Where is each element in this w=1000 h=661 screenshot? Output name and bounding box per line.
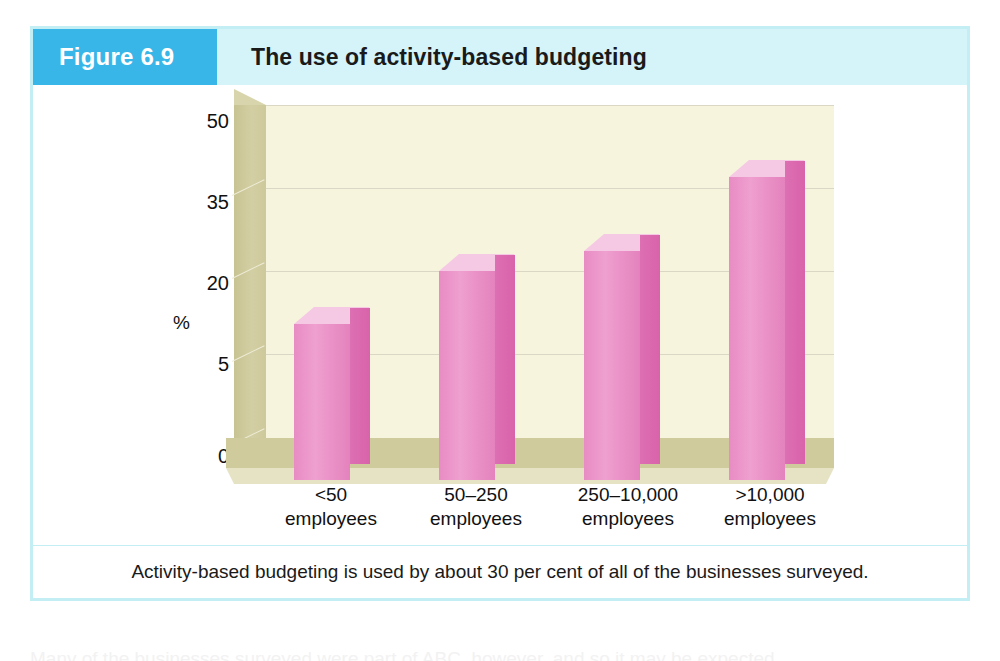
bar-side-face: [495, 255, 515, 464]
x-label-line2: employees: [553, 507, 703, 531]
axis-left-wall: [234, 105, 266, 438]
figure-header: Figure 6.9 The use of activity-based bud…: [33, 29, 967, 85]
x-label-medium: 50–250 employees: [416, 483, 536, 531]
figure-container: Figure 6.9 The use of activity-based bud…: [30, 26, 970, 601]
bar-chart-plot: [226, 105, 846, 480]
x-label-line1: 250–10,000: [553, 483, 703, 507]
gridline-50: [266, 105, 834, 106]
y-tick-label-0: 0: [183, 445, 229, 468]
chart-region: % 50 35 20 5 0 Small Medium Large Very l…: [33, 85, 967, 545]
bar-front-face: [439, 271, 495, 480]
x-label-line1: >10,000: [705, 483, 835, 507]
x-label-line2: employees: [705, 507, 835, 531]
x-label-line2: employees: [416, 507, 536, 531]
y-tick-label-35: 35: [183, 191, 229, 214]
bar-front-face: [584, 251, 640, 480]
x-label-large: 250–10,000 employees: [553, 483, 703, 531]
x-label-line1: <50: [271, 483, 391, 507]
y-axis-title: %: [173, 312, 190, 334]
bar-front-face: [729, 177, 785, 480]
x-label-line2: employees: [271, 507, 391, 531]
bar-side-face: [785, 161, 805, 464]
axis-wall-top-bevel: [234, 89, 266, 105]
x-label-very-large: >10,000 employees: [705, 483, 835, 531]
bar-front-face: [294, 324, 350, 480]
figure-number-badge: Figure 6.9: [33, 29, 217, 85]
bar-side-face: [350, 308, 370, 464]
x-label-small: <50 employees: [271, 483, 391, 531]
x-label-line1: 50–250: [416, 483, 536, 507]
bar-side-face: [640, 235, 660, 464]
y-tick-label-50: 50: [183, 110, 229, 133]
y-tick-label-20: 20: [183, 272, 229, 295]
figure-caption: Activity-based budgeting is used by abou…: [33, 546, 967, 598]
figure-title: The use of activity-based budgeting: [217, 44, 647, 71]
plot-floor-front-edge: [226, 438, 234, 468]
y-tick-label-5: 5: [183, 353, 229, 376]
page-body-text-cutoff: Many of the businesses surveyed were par…: [30, 648, 970, 661]
